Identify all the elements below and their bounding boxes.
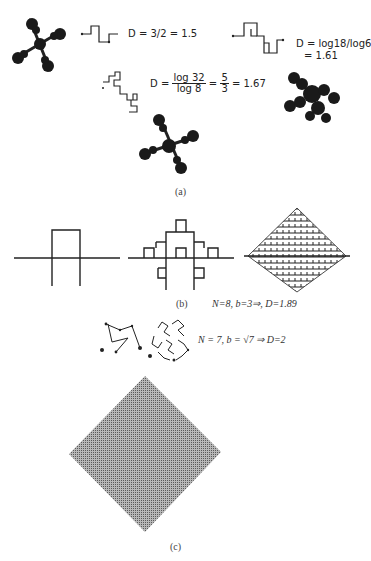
eq3-den2: 3: [220, 84, 228, 94]
peano-generator-stage-1: [14, 220, 122, 286]
eq2-line1: D = log18/log6: [296, 38, 371, 50]
caption-a: (a): [175, 186, 186, 197]
equation-d-1-61: D = log18/log6 = 1.61: [296, 38, 371, 62]
gosper-curve-iteration: [148, 318, 192, 362]
equation-d-1-67: D = log 32log 8 = 53 = 1.67: [150, 73, 266, 94]
caption-c: (c): [170, 541, 181, 552]
caption-b: (b): [176, 298, 188, 309]
generator-curve-1: [82, 24, 122, 44]
generator-curve-2: [233, 22, 283, 57]
formula-c: N = 7, b = √7 ⇒ D=2: [198, 334, 286, 345]
eq2-line2: = 1.61: [296, 50, 371, 62]
space-filling-diamond: [69, 376, 221, 532]
eq3-lhs: D =: [150, 78, 169, 89]
eq1-rhs: = 1.5: [170, 28, 197, 39]
generator-curve-3: [101, 72, 141, 112]
equation-d-1-5: D = 3/2 = 1.5: [128, 28, 197, 39]
eq3-mid: =: [209, 78, 217, 89]
eq1-den: 2: [160, 28, 166, 39]
eq3-fraction-simple: 53: [220, 73, 228, 94]
fractal-cross-top-left: [8, 12, 68, 74]
eq3-fraction-log: log 32log 8: [172, 73, 205, 94]
formula-b: N=8, b=3⇒, D=1.89: [212, 298, 297, 309]
eq1-lhs: D =: [128, 28, 147, 39]
gosper-generator: [102, 320, 146, 356]
peano-generator-stage-3: [244, 206, 350, 292]
peano-generator-stage-2: [128, 212, 236, 290]
eq3-den: log 8: [172, 84, 205, 94]
fractal-cross-center: [137, 110, 201, 176]
fractal-cluster-right: [280, 68, 342, 124]
eq3-rhs: = 1.67: [232, 78, 266, 89]
eq1-num: 3: [150, 28, 156, 39]
